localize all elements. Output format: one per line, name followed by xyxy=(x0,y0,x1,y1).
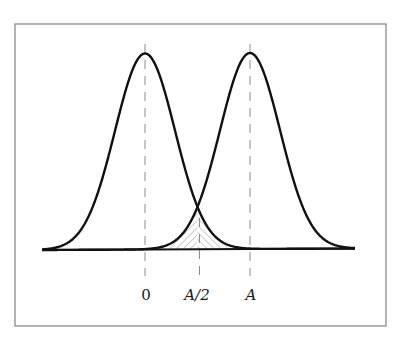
figure-frame xyxy=(15,24,386,326)
tick-label-half: A/2 xyxy=(182,286,209,304)
tick-label-zero: 0 xyxy=(141,286,151,304)
overlap-region-left-hatch xyxy=(160,207,198,249)
overlap-region-right-hatch xyxy=(198,207,241,249)
gaussian-overlap-figure: 0 A/2 A xyxy=(0,0,397,338)
tick-label-a: A xyxy=(244,286,257,304)
